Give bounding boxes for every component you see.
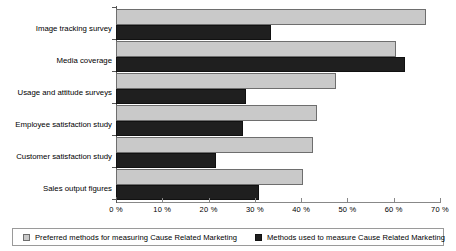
x-axis-tick-label-2: 20 % xyxy=(200,205,218,214)
x-axis-line xyxy=(116,202,441,203)
bar-preferred-2 xyxy=(116,73,336,89)
bar-used-4 xyxy=(116,153,216,168)
x-axis-tick-7 xyxy=(440,198,441,203)
bar-preferred-5 xyxy=(116,169,303,185)
bar-used-0 xyxy=(116,25,271,40)
x-axis-tick-label-1: 10 % xyxy=(153,205,171,214)
x-axis-tick-2 xyxy=(209,198,210,203)
x-axis-tick-1 xyxy=(162,198,163,203)
x-axis-tick-label-5: 50 % xyxy=(338,205,356,214)
chart-legend: Preferred methods for measuring Cause Re… xyxy=(12,228,444,246)
bar-preferred-1 xyxy=(116,41,396,57)
bar-chart: Image tracking survey Media coverage Usa… xyxy=(0,0,456,251)
x-axis-tick-0 xyxy=(116,197,117,203)
bar-preferred-4 xyxy=(116,137,313,153)
legend-item-used: Methods used to measure Cause Related Ma… xyxy=(255,233,445,242)
y-axis-tick-0 xyxy=(112,7,117,8)
x-axis-tick-label-7: 70 % xyxy=(431,205,449,214)
bar-preferred-3 xyxy=(116,105,317,121)
x-axis-tick-5 xyxy=(347,198,348,203)
x-axis-tick-3 xyxy=(255,198,256,203)
category-label-4: Customer satisfaction study xyxy=(0,152,112,161)
bar-used-5 xyxy=(116,185,259,200)
category-label-2: Usage and attitude surveys xyxy=(0,88,112,97)
x-axis-tick-label-0: 0 % xyxy=(109,205,123,214)
x-axis-tick-6 xyxy=(394,198,395,203)
legend-label-used: Methods used to measure Cause Related Ma… xyxy=(267,233,445,242)
category-label-0: Image tracking survey xyxy=(0,24,112,33)
x-axis-tick-label-3: 30 % xyxy=(246,205,264,214)
legend-swatch-used-icon xyxy=(255,234,262,241)
category-label-5: Sales output figures xyxy=(0,184,112,193)
bar-used-3 xyxy=(116,121,243,136)
x-axis-tick-4 xyxy=(301,198,302,203)
category-label-1: Media coverage xyxy=(0,56,112,65)
bar-used-2 xyxy=(116,89,246,104)
x-axis-tick-label-4: 40 % xyxy=(292,205,310,214)
bar-preferred-0 xyxy=(116,9,426,25)
legend-label-preferred: Preferred methods for measuring Cause Re… xyxy=(35,233,237,242)
category-label-3: Employee satisfaction study xyxy=(0,120,112,129)
legend-swatch-preferred-icon xyxy=(23,234,30,241)
x-axis-tick-label-6: 60 % xyxy=(385,205,403,214)
legend-item-preferred: Preferred methods for measuring Cause Re… xyxy=(23,233,237,242)
bar-used-1 xyxy=(116,57,405,72)
